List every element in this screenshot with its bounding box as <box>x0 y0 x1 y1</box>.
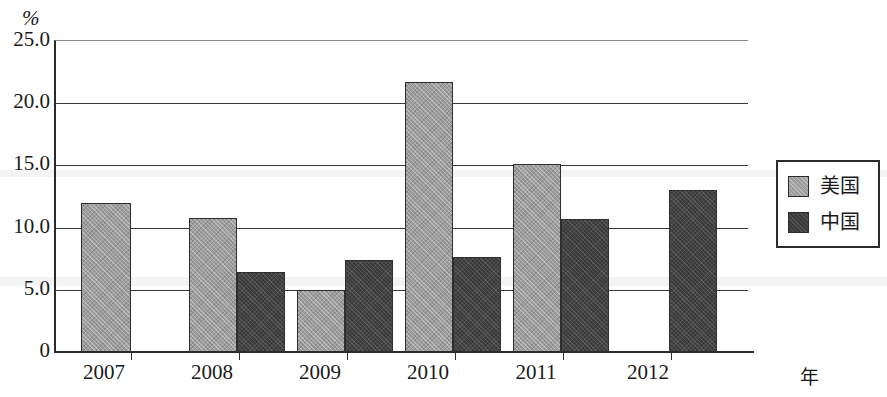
y-tick-label: 5.0 <box>0 278 50 299</box>
bar-us-2010 <box>405 82 453 352</box>
y-tick-label: 25.0 <box>0 29 50 50</box>
bar-cn-2010 <box>453 257 501 352</box>
y-tick-label: 10.0 <box>0 216 50 237</box>
legend-item-us: 美国 <box>788 168 878 204</box>
gridline-5 <box>56 290 748 291</box>
gridline-20 <box>56 103 748 104</box>
y-axis-tick-labels: 25.0 20.0 15.0 10.0 5.0 0 <box>0 0 50 397</box>
legend-label-cn: 中国 <box>820 212 860 232</box>
legend-item-cn: 中国 <box>788 204 878 240</box>
x-tick-mark <box>347 351 348 360</box>
x-axis-line <box>54 351 754 353</box>
x-tick-mark <box>563 351 564 360</box>
bar-us-2009 <box>297 290 345 352</box>
legend: 美国 中国 <box>776 160 880 248</box>
gridline-10 <box>56 228 748 229</box>
x-tick-label-2008: 2008 <box>172 360 252 385</box>
x-axis-name-label: 年 <box>800 362 819 389</box>
bar-cn-2009 <box>345 260 393 352</box>
x-tick-label-2009: 2009 <box>280 360 360 385</box>
bar-cn-2012 <box>669 190 717 352</box>
bar-us-2011 <box>513 164 561 352</box>
x-tick-mark <box>455 351 456 360</box>
bar-cn-2011 <box>561 219 609 352</box>
y-tick-label: 15.0 <box>0 153 50 174</box>
bar-us-2008 <box>189 218 237 352</box>
x-tick-label-2010: 2010 <box>388 360 468 385</box>
x-tick-label-2007: 2007 <box>64 360 144 385</box>
x-tick-mark <box>239 351 240 360</box>
plot-area <box>54 40 748 352</box>
legend-swatch-us-icon <box>788 176 809 197</box>
legend-label-us: 美国 <box>820 176 860 196</box>
gridline-15 <box>56 165 748 166</box>
y-tick-label: 20.0 <box>0 91 50 112</box>
x-tick-mark <box>131 351 132 360</box>
bar-us-2007 <box>81 203 131 352</box>
bar-cn-2008 <box>237 272 285 352</box>
bar-chart-figure: % 25.0 20.0 15.0 10.0 5.0 0 2007 2008 2 <box>0 0 887 397</box>
legend-swatch-cn-icon <box>788 212 809 233</box>
x-tick-label-2012: 2012 <box>608 360 688 385</box>
y-tick-label: 0 <box>0 340 50 361</box>
x-tick-label-2011: 2011 <box>496 360 576 385</box>
x-tick-mark <box>671 351 672 360</box>
